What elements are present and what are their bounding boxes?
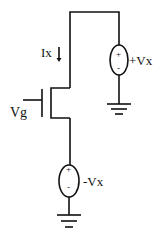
source-source-label: -Vx bbox=[83, 174, 104, 189]
current-label: Ix bbox=[41, 45, 52, 60]
current-arrow-icon bbox=[57, 47, 62, 62]
circuit-diagram: Ix Vg + - +Vx + - -Vx bbox=[0, 0, 166, 241]
drain-source-minus: - bbox=[117, 63, 120, 73]
source-source-plus: + bbox=[66, 164, 71, 174]
drain-source-plus: + bbox=[116, 49, 121, 59]
drain-source-label: +Vx bbox=[129, 53, 153, 68]
source-source-minus: - bbox=[67, 182, 70, 192]
ground-source-icon bbox=[57, 215, 81, 227]
ground-drain-icon bbox=[107, 104, 131, 114]
nmos-transistor-icon bbox=[23, 88, 70, 118]
gate-label: Vg bbox=[10, 105, 27, 120]
